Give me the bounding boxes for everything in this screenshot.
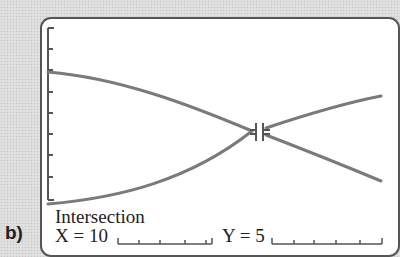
y-axis — [48, 28, 54, 200]
x-readout-ruler — [118, 238, 212, 244]
y-readout-ruler — [272, 238, 382, 244]
intersection-title: Intersection — [55, 207, 145, 226]
decreasing-curve — [48, 72, 381, 181]
y-readout: Y = 5 — [222, 226, 265, 245]
increasing-curve — [48, 96, 381, 204]
panel-label: b) — [5, 222, 23, 244]
x-readout: X = 10 — [55, 226, 108, 245]
